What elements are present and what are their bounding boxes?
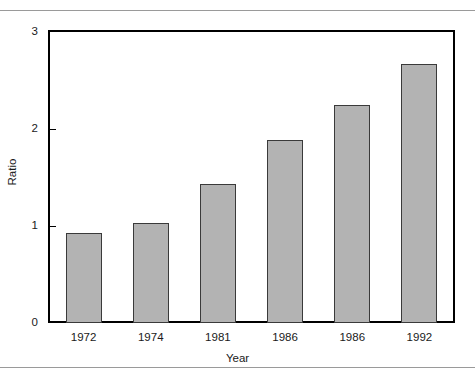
plot-area bbox=[50, 32, 453, 323]
bar bbox=[334, 105, 370, 323]
x-tick-label: 1981 bbox=[185, 331, 251, 343]
y-tick-label: 3 bbox=[8, 26, 38, 38]
x-tick-label: 1992 bbox=[386, 331, 452, 343]
y-tick-label: 1 bbox=[8, 220, 38, 232]
x-tick-label: 1974 bbox=[118, 331, 184, 343]
bar bbox=[66, 233, 102, 323]
x-tick-label: 1972 bbox=[51, 331, 117, 343]
y-tick-label: 2 bbox=[8, 123, 38, 135]
bar bbox=[133, 223, 169, 323]
bar bbox=[267, 140, 303, 323]
bar bbox=[401, 64, 437, 323]
bar-chart-figure: 0123 197219741981198619861992 Year Ratio bbox=[0, 0, 475, 379]
x-tick-label: 1986 bbox=[319, 331, 385, 343]
y-axis-title: Ratio bbox=[6, 142, 18, 202]
x-axis-title: Year bbox=[0, 352, 475, 364]
x-tick-label: 1986 bbox=[252, 331, 318, 343]
bar bbox=[200, 184, 236, 323]
y-tick-label: 0 bbox=[8, 317, 38, 329]
